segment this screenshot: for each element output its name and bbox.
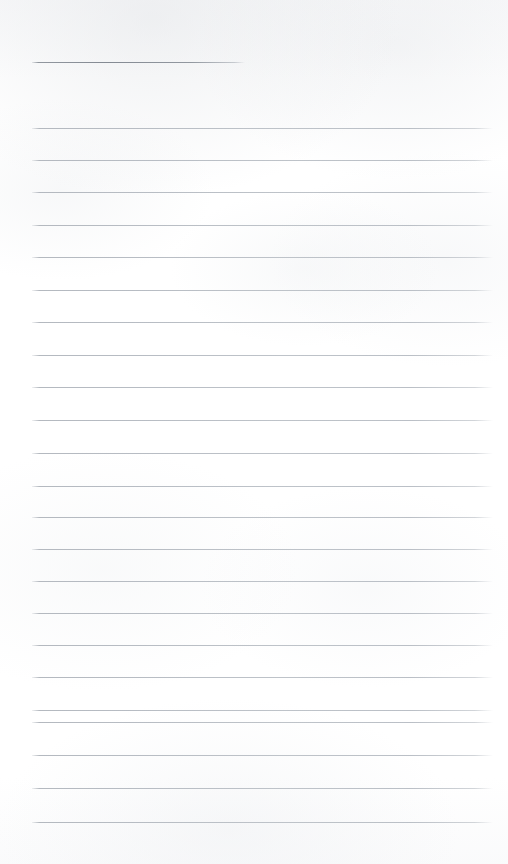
rule-line <box>32 645 493 646</box>
rule-line <box>32 160 493 161</box>
notepad-page <box>0 0 508 864</box>
rule-line <box>32 355 493 356</box>
rule-line <box>32 549 493 550</box>
rule-line <box>32 257 493 258</box>
header-rule-line <box>32 62 245 63</box>
rule-line <box>32 387 493 388</box>
rule-line <box>32 581 493 582</box>
rule-line <box>32 420 493 421</box>
rule-line <box>32 710 493 711</box>
rule-line <box>32 722 493 723</box>
rule-line <box>32 677 493 678</box>
rule-line <box>32 453 493 454</box>
rule-line <box>32 788 493 789</box>
paper-texture-overlay <box>0 0 508 864</box>
rule-line <box>32 486 493 487</box>
rule-line <box>32 517 493 518</box>
rule-line <box>32 755 493 756</box>
rule-line <box>32 822 493 823</box>
rule-line <box>32 613 493 614</box>
rule-line <box>32 290 493 291</box>
rule-line <box>32 225 493 226</box>
rule-line <box>32 128 493 129</box>
rule-line <box>32 322 493 323</box>
rule-line <box>32 192 493 193</box>
